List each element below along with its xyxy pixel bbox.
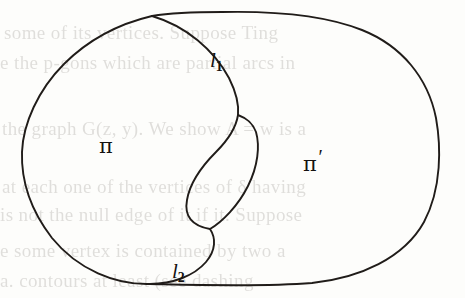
label-arc-l1: l1 bbox=[210, 50, 223, 74]
label-region-pi-prime-glyph: π bbox=[303, 152, 317, 176]
prime-mark: ′ bbox=[317, 146, 321, 168]
label-region-pi: π bbox=[99, 136, 113, 157]
curve-drawing-layer bbox=[0, 0, 465, 298]
arc-l2 bbox=[150, 115, 258, 284]
label-region-pi-prime: π′ bbox=[303, 148, 322, 175]
outer-boundary-curve bbox=[22, 12, 439, 286]
figure-svg bbox=[0, 0, 465, 298]
figure-jordan-curve-two-regions: some of its vertices. Suppose Ting e the… bbox=[0, 0, 465, 298]
label-arc-l2-subscript: 2 bbox=[178, 270, 185, 285]
label-region-pi-glyph: π bbox=[99, 134, 113, 158]
label-arc-l1-subscript: 1 bbox=[216, 59, 223, 74]
label-arc-l2: l2 bbox=[172, 261, 185, 285]
arc-l1 bbox=[152, 16, 238, 229]
